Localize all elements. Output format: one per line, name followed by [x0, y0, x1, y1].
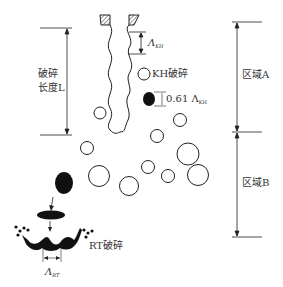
- scale-factor-label: 0.61 ΛKH: [166, 93, 207, 108]
- rt-breakup: [14, 172, 93, 262]
- lambda-kh-subscript: KH: [155, 43, 163, 49]
- secondary-droplets: [81, 107, 209, 196]
- region-b-label: 区域B: [242, 177, 269, 189]
- scale-factor-text: 0.61 Λ: [166, 93, 199, 104]
- breakup-length-label-2: 长度L: [38, 82, 65, 94]
- scale-factor-subscript: KH: [199, 99, 207, 105]
- lambda-rt-label: ΛRT: [45, 266, 59, 281]
- breakup-diagram: [0, 0, 283, 287]
- rt-breakup-label: RT破碎: [89, 240, 123, 252]
- kh-breakup-label: KH破碎: [152, 68, 188, 80]
- region-a-label: 区域A: [242, 69, 269, 81]
- lambda-rt-subscript: RT: [52, 272, 59, 278]
- liquid-jet: [108, 25, 131, 133]
- nozzle: [100, 15, 139, 25]
- region-dimensions: [232, 22, 262, 237]
- breakup-length-label-1: 破碎: [38, 68, 58, 80]
- lambda-kh-label: ΛKH: [148, 37, 163, 52]
